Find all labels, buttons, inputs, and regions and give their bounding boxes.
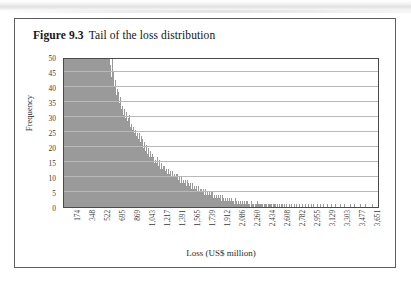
histogram-bar — [294, 204, 295, 207]
y-axis-title: Frequency — [24, 78, 34, 148]
x-axis-tick-label: 3,477 — [359, 210, 367, 226]
histogram-bar — [284, 204, 285, 207]
y-axis-tick-label: 40 — [49, 84, 56, 93]
x-axis-tick-label: 522 — [104, 210, 112, 221]
histogram-bar — [289, 204, 290, 207]
y-axis-tick-label: 50 — [49, 54, 56, 63]
gridline — [64, 86, 378, 87]
histogram-bar — [327, 204, 328, 207]
histogram-bar — [360, 204, 361, 207]
histogram-bar — [302, 204, 303, 207]
y-axis-tick-label: 45 — [49, 69, 56, 78]
x-axis-tick-label: 2,955 — [314, 210, 322, 226]
x-axis-tick-label: 1,739 — [209, 210, 217, 226]
histogram-bar — [331, 204, 332, 207]
y-axis-tick-label: 30 — [49, 114, 56, 123]
histogram-bar — [286, 204, 287, 207]
histogram-bar — [277, 204, 278, 207]
histogram-bar — [344, 204, 345, 207]
scan-artifact-line — [0, 10, 411, 13]
histogram-bar — [320, 204, 321, 207]
gridline — [64, 116, 378, 117]
histogram-bar — [249, 204, 250, 207]
histogram-bar — [282, 204, 283, 207]
histogram-bar — [291, 204, 292, 207]
x-axis-tick-label: 348 — [89, 210, 97, 221]
x-axis-tick-label: 1,391 — [179, 210, 187, 226]
histogram-bar — [271, 204, 272, 207]
histogram-bar — [296, 204, 297, 207]
figure-label: Figure 9.3 — [33, 29, 84, 41]
x-axis-tick-label: 1,912 — [224, 210, 232, 226]
y-axis-tick-label: 25 — [49, 129, 56, 138]
y-axis-tick-label: 20 — [49, 144, 56, 153]
y-axis-tick-label: 35 — [49, 99, 56, 108]
histogram-bar — [365, 204, 366, 207]
histogram-bar — [305, 204, 306, 207]
gridline — [64, 101, 378, 102]
figure-container: Figure 9.3Tail of the loss distribution … — [14, 18, 396, 268]
figure-title: Tail of the loss distribution — [89, 29, 216, 41]
x-axis-title: Loss (US$ million) — [63, 248, 379, 258]
histogram-bar — [279, 204, 280, 207]
histogram-bar — [350, 204, 351, 207]
x-axis-tick-label: 3,303 — [344, 210, 352, 226]
histogram-bar — [340, 204, 341, 207]
gridline — [64, 191, 378, 192]
x-axis-tick-label: 869 — [134, 210, 142, 221]
gridline — [64, 71, 378, 72]
histogram-bars — [64, 59, 378, 207]
x-axis-tick-label: 3,651 — [374, 210, 382, 226]
y-axis-tick-label: 0 — [52, 204, 56, 213]
gridline — [64, 176, 378, 177]
x-axis-tick-label: 695 — [119, 210, 127, 221]
x-axis-tick-label: 2,782 — [299, 210, 307, 226]
x-axis-tick-label: 2,086 — [239, 210, 247, 226]
x-axis-tick-label: 1,217 — [164, 210, 172, 226]
y-axis-tick-label: 5 — [52, 189, 56, 198]
figure-caption: Figure 9.3Tail of the loss distribution — [33, 29, 215, 41]
y-axis: Frequency 05101520253035404550 — [15, 58, 59, 208]
histogram-bar — [253, 204, 254, 207]
histogram-bar — [266, 204, 267, 207]
histogram-bar — [354, 204, 355, 207]
x-axis-tick-label: 2,434 — [269, 210, 277, 226]
histogram-bar — [313, 204, 314, 207]
x-axis-tick-label: 2,260 — [254, 210, 262, 226]
x-axis-tick-label: 3,129 — [329, 210, 337, 226]
histogram-bar — [311, 204, 312, 207]
x-axis-tick-label: 174 — [74, 210, 82, 221]
histogram-bar — [308, 204, 309, 207]
histogram-bar — [275, 204, 276, 207]
gridline — [64, 131, 378, 132]
histogram-bar — [317, 204, 318, 207]
x-axis-tick-label: 1,043 — [149, 210, 157, 226]
histogram-bar — [323, 204, 324, 207]
histogram-bar — [299, 204, 300, 207]
plot-frame — [63, 58, 379, 208]
gridline — [64, 161, 378, 162]
histogram-bar — [335, 204, 336, 207]
histogram-bar — [372, 204, 373, 207]
histogram-bar — [262, 204, 263, 207]
histogram-bar — [259, 204, 260, 207]
gridline — [64, 146, 378, 147]
histogram-bar — [270, 204, 271, 207]
x-axis-tick-label: 1,565 — [194, 210, 202, 226]
y-axis-tick-label: 10 — [49, 174, 56, 183]
x-axis-tick-label: 2,608 — [284, 210, 292, 226]
chart-area: Frequency 05101520253035404550 174348522… — [15, 52, 397, 268]
y-axis-tick-label: 15 — [49, 159, 56, 168]
